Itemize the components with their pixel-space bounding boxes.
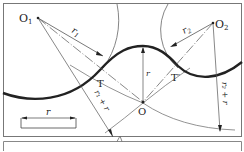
o2-o-centerline [143,23,213,102]
caption-box [4,142,242,152]
scale-arrow-right [70,117,76,120]
label-r1-plus-r: r₁ + r [92,89,112,114]
label-r: r [146,69,151,78]
r2-line [172,23,213,46]
r2-arrowhead [170,42,177,47]
diagram-frame [4,4,242,137]
label-o2: O2 [215,18,229,32]
point-o1 [37,17,40,20]
tangent-arc-curve [3,46,242,99]
label-t-prime: T′ [171,72,181,83]
o1-o-centerline [38,18,143,102]
point-o [142,101,145,104]
label-r2: r2 [180,23,193,37]
label-r2-plus-r: r₂ + r [220,82,230,106]
r1-arrowhead [96,51,103,56]
r-arrowhead [141,47,145,53]
label-r1: r1 [70,25,83,39]
label-o1: O1 [19,12,33,26]
r1-line [38,18,103,56]
point-o2 [212,22,215,25]
label-o: O [138,106,146,117]
r1-plus-r-arrowhead [108,129,113,137]
tangent-arc-diagram: O1 O2 O T T′ r1 r2 r r₁ + r r₂ + r r [0,0,244,151]
scale-arrow-left [21,117,27,120]
label-scale-r: r [46,107,51,117]
